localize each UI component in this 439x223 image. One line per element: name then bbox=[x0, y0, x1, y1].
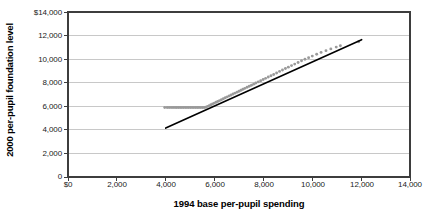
chart-figure: 2000 per-pupil foundation level $14,000 … bbox=[0, 0, 439, 223]
scatter-points bbox=[163, 40, 360, 109]
plot-area bbox=[0, 0, 439, 223]
trend-line bbox=[166, 40, 362, 128]
